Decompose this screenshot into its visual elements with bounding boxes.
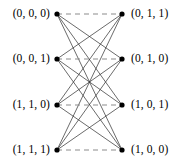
bipartite-graph-svg <box>0 0 183 166</box>
graph-node-left-0[interactable] <box>54 11 59 16</box>
node-label-right-3: (1, 0, 0) <box>131 144 183 156</box>
figure-canvas: (0, 0, 0) (0, 0, 1) (1, 1, 0) (1, 1, 1) … <box>0 0 183 166</box>
node-label-right-0: (0, 1, 1) <box>131 8 183 20</box>
graph-node-right-0[interactable] <box>119 11 124 16</box>
graph-node-left-1[interactable] <box>54 56 59 61</box>
graph-node-left-2[interactable] <box>54 102 59 107</box>
graph-node-right-3[interactable] <box>119 147 124 152</box>
node-label-left-1: (0, 0, 1) <box>0 53 50 65</box>
solid-edge-layer <box>57 14 122 150</box>
node-label-left-3: (1, 1, 1) <box>0 144 50 156</box>
node-label-right-1: (0, 1, 0) <box>131 53 183 65</box>
node-label-left-2: (1, 1, 0) <box>0 99 50 111</box>
graph-node-left-3[interactable] <box>54 147 59 152</box>
node-label-right-2: (1, 0, 1) <box>131 99 183 111</box>
graph-node-right-1[interactable] <box>119 56 124 61</box>
graph-node-right-2[interactable] <box>119 102 124 107</box>
node-label-left-0: (0, 0, 0) <box>0 8 50 20</box>
